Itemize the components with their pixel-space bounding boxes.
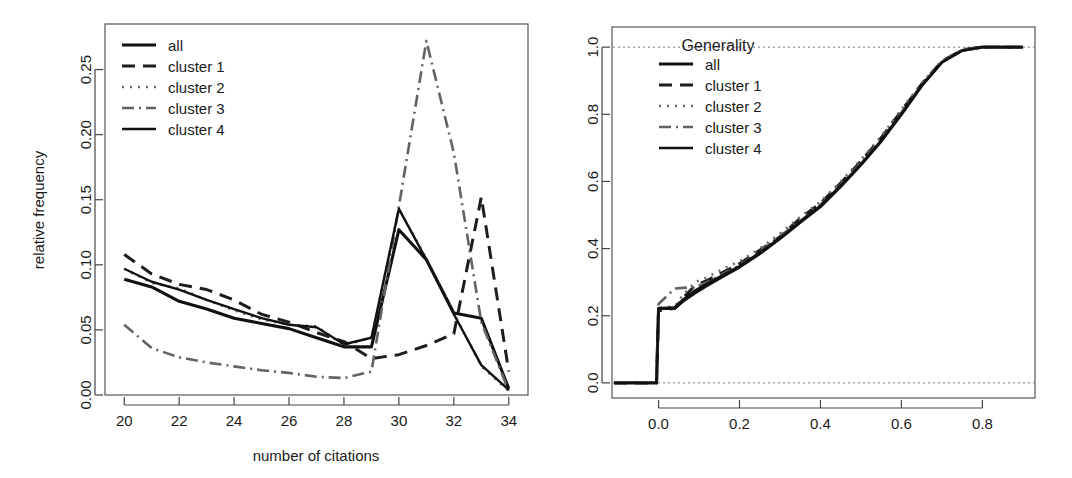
y-tick-label: 0.00 (77, 380, 94, 409)
left-chart-svg: 0.000.050.100.150.200.25 202224262830323… (0, 0, 545, 478)
legend-label-cluster-4: cluster 4 (705, 140, 762, 157)
legend-label-cluster-2: cluster 2 (168, 79, 225, 96)
left-x-axis-ticks: 2022242628303234 (116, 397, 517, 429)
curve-cluster-2 (124, 209, 509, 391)
legend-label-cluster-2: cluster 2 (705, 98, 762, 115)
curve-cluster-3 (614, 47, 1023, 383)
curve-cluster-2 (614, 47, 1023, 383)
x-tick-label: 22 (171, 412, 188, 429)
x-tick-label: 26 (281, 412, 298, 429)
y-tick-label: 0.15 (77, 185, 94, 214)
legend-label-all: all (168, 37, 183, 54)
y-tick-label: 0.25 (77, 55, 94, 84)
figure-container: 0.000.050.100.150.200.25 202224262830323… (0, 0, 1072, 478)
left-y-axis-ticks: 0.000.050.100.150.200.25 (77, 55, 103, 410)
x-tick-label: 0.4 (810, 415, 831, 432)
curve-cluster-4 (124, 209, 509, 390)
x-tick-label: 0.6 (891, 415, 912, 432)
right-chart-title: Generality (682, 37, 755, 54)
legend-label-cluster-1: cluster 1 (705, 77, 762, 94)
legend-label-cluster-1: cluster 1 (168, 58, 225, 75)
x-tick-label: 32 (445, 412, 462, 429)
x-tick-label: 30 (391, 412, 408, 429)
x-tick-label: 0.2 (729, 415, 750, 432)
right-y-axis-ticks: 0.00.20.40.60.81.0 (584, 37, 610, 394)
y-tick-label: 0.0 (584, 372, 601, 393)
right-chart-panel: 0.00.20.40.60.81.0 0.00.20.40.60.8 Gener… (545, 0, 1072, 478)
left-chart-panel: 0.000.050.100.150.200.25 202224262830323… (0, 0, 545, 478)
y-tick-label: 0.10 (77, 250, 94, 279)
x-tick-label: 0.0 (648, 415, 669, 432)
legend-label-cluster-3: cluster 3 (705, 119, 762, 136)
y-tick-label: 0.4 (584, 238, 601, 259)
left-y-axis-title: relative frequency (30, 150, 47, 269)
y-tick-label: 0.6 (584, 171, 601, 192)
x-tick-label: 34 (500, 412, 517, 429)
left-x-axis-title: number of citations (253, 447, 380, 464)
legend-label-cluster-4: cluster 4 (168, 121, 225, 138)
curve-cluster-1 (124, 197, 509, 371)
right-legend: allcluster 1cluster 2cluster 3cluster 4 (659, 56, 762, 157)
left-legend: allcluster 1cluster 2cluster 3cluster 4 (122, 37, 225, 138)
legend-label-all: all (705, 56, 720, 73)
x-tick-label: 28 (336, 412, 353, 429)
y-tick-label: 0.05 (77, 315, 94, 344)
curve-cluster-1 (614, 47, 1023, 383)
y-tick-label: 0.20 (77, 120, 94, 149)
curve-cluster-4 (614, 47, 1023, 383)
y-tick-label: 0.2 (584, 305, 601, 326)
y-tick-label: 1.0 (584, 37, 601, 58)
x-tick-label: 20 (116, 412, 133, 429)
curve-all (614, 47, 1023, 383)
x-tick-label: 0.8 (972, 415, 993, 432)
right-chart-svg: 0.00.20.40.60.81.0 0.00.20.40.60.8 Gener… (545, 0, 1072, 478)
right-plot-frame (612, 27, 1035, 398)
y-tick-label: 0.8 (584, 104, 601, 125)
legend-label-cluster-3: cluster 3 (168, 100, 225, 117)
right-reference-lines (613, 47, 1034, 383)
x-tick-label: 24 (226, 412, 243, 429)
right-curves-group (614, 47, 1023, 383)
right-x-axis-ticks: 0.00.20.40.60.8 (648, 400, 993, 432)
